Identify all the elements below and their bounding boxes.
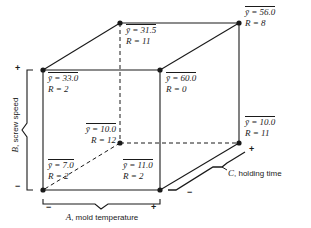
depth-edge-top-right	[160, 23, 239, 70]
vertex-ybar-top-back-right: ȳ = 56.0	[245, 7, 275, 17]
vertex-dot-top-back-right	[236, 20, 241, 25]
vertex-dot-top-front-right	[157, 67, 162, 72]
cube-plot-figure: ȳ = 31.5 R = 11 ȳ = 56.0 R = 8 ȳ = 33.0 …	[0, 0, 311, 228]
vertex-dot-bot-front-right	[157, 187, 162, 192]
c-axis-leader	[222, 167, 227, 170]
vertex-label-bot-back-right: ȳ = 10.0 R = 11	[245, 117, 275, 139]
vertex-dot-bot-front-left	[40, 187, 45, 192]
axis-label-b: B, screw speed	[10, 87, 20, 163]
axis-label-c: C, holding time	[228, 168, 282, 178]
vertex-r-bot-back-right: R = 11	[245, 128, 269, 138]
axis-c-high-sign: +	[249, 145, 254, 154]
vertex-label-bot-front-right: ȳ = 11.0 R = 2	[123, 160, 153, 182]
a-axis-brace	[43, 199, 160, 209]
vertex-label-top-back-left: ȳ = 31.5 R = 11	[126, 25, 156, 47]
vertex-r-bot-front-left: R = 2	[48, 171, 69, 181]
vertex-label-top-front-right: ȳ = 60.0 R = 0	[166, 73, 196, 95]
axis-name-a: , mold temperature	[71, 213, 138, 222]
axis-b-low-sign: −	[15, 182, 20, 191]
vertex-r-top-back-left: R = 11	[126, 36, 150, 46]
vertex-ybar-bot-back-left: ȳ = 10.0	[86, 124, 116, 134]
vertex-dot-top-front-left	[40, 67, 45, 72]
axis-label-a: A, mold temperature	[52, 212, 152, 222]
axis-letter-b: B	[10, 147, 20, 153]
vertex-label-top-front-left: ȳ = 33.0 R = 2	[48, 73, 78, 95]
vertex-r-top-back-right: R = 8	[245, 18, 266, 28]
vertex-r-top-front-right: R = 0	[166, 84, 187, 94]
vertex-r-bot-back-left: R = 12	[91, 135, 116, 145]
vertex-ybar-top-back-left: ȳ = 31.5	[126, 25, 156, 35]
vertex-dot-bot-back-right	[236, 140, 241, 145]
axis-name-b: , screw speed	[11, 98, 20, 147]
depth-edge-top-left	[43, 23, 120, 70]
vertex-ybar-top-front-right: ȳ = 60.0	[166, 73, 196, 83]
vertex-r-top-front-left: R = 2	[48, 84, 69, 94]
vertex-label-bot-front-left: ȳ = 7.0 R = 2	[48, 160, 74, 182]
vertex-r-bot-front-right: R = 2	[123, 171, 144, 181]
b-axis-brace	[22, 70, 33, 190]
axis-a-high-sign: +	[151, 203, 156, 212]
vertex-ybar-top-front-left: ȳ = 33.0	[48, 73, 78, 83]
vertex-ybar-bot-front-left: ȳ = 7.0	[48, 160, 74, 170]
axis-name-c: , holding time	[234, 169, 282, 178]
axis-c-low-sign: −	[187, 188, 192, 197]
depth-edge-bottom-right	[160, 143, 239, 190]
vertex-ybar-bot-front-right: ȳ = 11.0	[123, 160, 153, 170]
axis-a-low-sign: −	[46, 203, 51, 212]
vertex-label-top-back-right: ȳ = 56.0 R = 8	[245, 7, 275, 29]
vertex-label-bot-back-left: ȳ = 10.0 R = 12	[62, 124, 116, 146]
vertex-dot-bot-back-left	[117, 140, 122, 145]
axis-b-high-sign: +	[15, 64, 20, 73]
vertex-dot-top-back-left	[117, 20, 122, 25]
vertex-ybar-bot-back-right: ȳ = 10.0	[245, 117, 275, 127]
